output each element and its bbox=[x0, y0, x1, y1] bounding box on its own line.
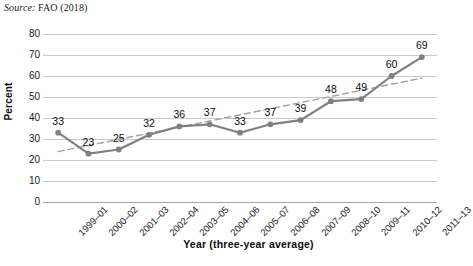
data-point-label: 37 bbox=[204, 107, 216, 118]
y-axis-tick-labels: 80706050403020100 bbox=[12, 0, 40, 266]
data-point-marker bbox=[55, 130, 61, 136]
x-axis-tick-label: 2008–10 bbox=[349, 204, 383, 238]
data-point-label: 49 bbox=[355, 82, 367, 93]
data-point-label: 48 bbox=[325, 84, 337, 95]
data-point-label: 60 bbox=[386, 59, 398, 70]
plot-area: 33232532363733373948496069 bbox=[43, 34, 437, 202]
data-point-marker bbox=[328, 98, 334, 104]
data-point-marker bbox=[267, 121, 273, 127]
y-axis-tick-label: 60 bbox=[16, 71, 40, 81]
data-point-label: 37 bbox=[264, 107, 276, 118]
gridline bbox=[43, 202, 437, 203]
data-point-label: 33 bbox=[52, 116, 64, 127]
x-axis-tick-label: 2005–07 bbox=[258, 204, 292, 238]
data-point-marker bbox=[298, 117, 304, 123]
y-axis-tick-label: 20 bbox=[16, 155, 40, 165]
data-point-marker bbox=[176, 124, 182, 130]
data-point-marker bbox=[116, 147, 122, 153]
y-axis-tick-label: 50 bbox=[16, 92, 40, 102]
data-point-marker bbox=[237, 130, 243, 136]
y-axis-tick-label: 80 bbox=[16, 29, 40, 39]
x-axis-tick-label: 2002–04 bbox=[167, 204, 201, 238]
data-point-label: 33 bbox=[234, 116, 246, 127]
data-point-label: 36 bbox=[174, 109, 186, 120]
data-point-label: 39 bbox=[295, 103, 307, 114]
data-point-marker bbox=[86, 151, 92, 157]
data-point-label: 25 bbox=[113, 133, 125, 144]
data-point-label: 23 bbox=[83, 137, 95, 148]
y-axis-tick-label: 40 bbox=[16, 113, 40, 123]
data-point-marker bbox=[419, 54, 425, 60]
x-axis-tick-label: 2003–05 bbox=[197, 204, 231, 238]
x-axis-tick-label: 2010–12 bbox=[409, 204, 443, 238]
data-point-marker bbox=[146, 132, 152, 138]
x-axis-tick-label: 1999–01 bbox=[76, 204, 110, 238]
x-axis-tick-label: 2000–02 bbox=[106, 204, 140, 238]
data-point-marker bbox=[389, 73, 395, 79]
x-axis-tick-label: 2006–08 bbox=[288, 204, 322, 238]
y-axis-tick-label: 0 bbox=[16, 197, 40, 207]
data-point-marker bbox=[207, 121, 213, 127]
data-point-label: 69 bbox=[416, 40, 428, 51]
x-axis-tick-label: 2007–09 bbox=[318, 204, 352, 238]
x-axis-tick-label: 2004–06 bbox=[228, 204, 262, 238]
y-axis-tick-label: 30 bbox=[16, 134, 40, 144]
data-point-marker bbox=[358, 96, 364, 102]
x-axis-tick-label: 2011–13 bbox=[439, 204, 472, 237]
data-point-label: 32 bbox=[143, 118, 155, 129]
x-axis-title: Year (three-year average) bbox=[0, 238, 445, 250]
y-axis-tick-label: 70 bbox=[16, 50, 40, 60]
x-axis-tick-label: 2009–11 bbox=[379, 204, 412, 237]
x-axis-tick-label: 2001–03 bbox=[137, 204, 171, 238]
y-axis-tick-label: 10 bbox=[16, 176, 40, 186]
